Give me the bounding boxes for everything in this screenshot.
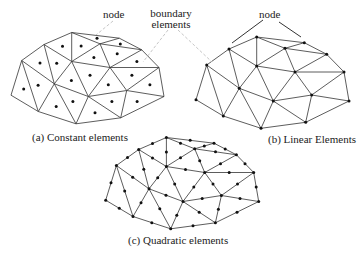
centroid-node [135,60,138,63]
centroid-node [116,52,119,55]
vertex-node [310,94,313,97]
callout-node-b [232,20,301,43]
midside-node [158,207,161,210]
vertex-node [165,136,168,139]
vertex-node [303,41,306,44]
midside-node [126,156,129,159]
centroid-node [94,111,97,114]
midside-node [224,148,227,151]
element-edge [285,43,304,49]
midside-node [165,151,168,154]
midside-node [151,157,154,160]
centroid-node [61,45,64,48]
vertex-node [182,200,185,203]
centroid-node [96,37,99,40]
midside-node [192,186,195,189]
midside-node [236,183,239,186]
vertex-node [132,215,135,218]
centroid-node [55,62,58,65]
midside-node [140,201,143,204]
element-edge [261,101,273,128]
vertex-node [238,87,241,90]
centroid-node [130,74,133,77]
vertex-node [348,100,351,103]
label-node-b: node [259,9,280,20]
element-edge [273,72,295,101]
centroid-node [92,56,95,59]
midside-node [212,183,215,186]
element-edge [229,37,257,49]
element-edge [196,65,207,100]
centroid-node [37,84,40,87]
centroid-node [110,100,113,103]
centroid-node [39,61,42,64]
element-edge [207,65,224,116]
element-edge [285,48,295,72]
element-edge [306,101,349,122]
element-edge [273,101,305,122]
element-edge [44,33,72,45]
element-edge [295,72,312,95]
label-boundary-elements: boundary elements [150,8,192,30]
vertex-node [205,64,208,67]
midside-node [219,162,222,165]
element-edge [257,48,285,66]
element-edge [121,97,164,118]
midside-node [198,211,201,214]
vertex-node [193,147,196,150]
element-edge [312,72,344,95]
centroid-node [119,42,122,45]
midside-node [179,142,182,145]
caption-b: (b) Linear Elements [268,134,356,145]
element-edge [100,38,119,44]
element-edge [159,68,164,97]
element-edge [273,95,311,101]
centroid-node [107,83,110,86]
vertex-node [228,48,231,51]
callout-node-a [96,21,113,35]
centroid-node [148,83,151,86]
element-edge [327,54,344,72]
vertex-node [214,221,217,224]
vertex-node [137,148,140,151]
element-edge [121,91,127,118]
midside-node [173,183,176,186]
vertex-node [213,142,216,145]
midside-node [175,214,178,217]
element-edge [127,91,164,97]
caption-c: (c) Quadratic elements [128,235,228,246]
element-edge [22,45,44,61]
element-edge [312,95,349,101]
midside-node [198,159,201,162]
element-edge [88,68,110,97]
mesh-quadratic-elements [104,136,260,230]
element-edge [295,54,327,72]
midside-node [156,176,159,179]
element-edge [127,68,159,91]
element-edge [207,49,229,65]
mesh-constant-elements [11,33,164,124]
vertex-node [235,153,238,156]
centroid-node [22,88,25,91]
vertex-node [148,187,151,190]
centroid-node [55,105,58,108]
centroid-node [89,74,92,77]
centroid-node [80,44,83,47]
vertex-node [343,71,346,74]
element-edge [257,66,295,72]
midside-node [236,211,239,214]
element-edge [38,84,54,112]
element-edge [100,44,110,68]
midside-node [151,142,154,145]
midside-node [179,156,182,159]
midside-node [118,207,121,210]
element-edge [110,68,127,91]
element-edge [22,61,39,112]
midside-node [150,221,153,224]
element-edge [239,66,256,88]
element-edge [76,97,88,124]
element-edge [344,72,349,101]
vertex-node [294,71,297,74]
vertex-node [203,171,206,174]
element-edge [110,50,142,68]
